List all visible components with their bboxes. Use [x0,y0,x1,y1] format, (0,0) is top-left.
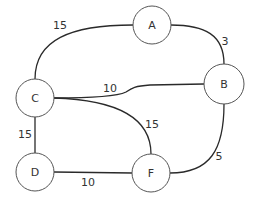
node-d: D [16,153,54,191]
graph-svg: 15 3 10 15 15 10 5 A B C D F [0,0,257,202]
node-b: B [204,64,244,104]
edge-c-a [35,25,133,79]
edge-c-f [54,98,151,154]
node-a: A [133,6,171,44]
node-f: F [132,154,170,192]
edge-weight-c-a: 15 [53,19,67,32]
edge-weight-c-b: 10 [103,82,117,95]
edge-c-b [54,84,204,98]
graph-diagram: 15 3 10 15 15 10 5 A B C D F [0,0,257,202]
edge-weight-d-f: 10 [81,176,95,189]
node-c: C [16,79,54,117]
edge-weight-c-d: 15 [18,128,32,141]
node-a-label: A [148,19,156,32]
edge-weight-b-f: 5 [216,150,223,163]
node-d-label: D [31,166,39,179]
edge-b-f [170,104,224,173]
edge-weight-c-f: 15 [145,118,159,131]
edge-weight-a-b: 3 [222,35,229,48]
edge-a-b [171,25,224,64]
node-b-label: B [220,78,228,91]
edge-d-f [54,172,132,173]
node-f-label: F [148,167,154,180]
node-c-label: C [31,92,39,105]
